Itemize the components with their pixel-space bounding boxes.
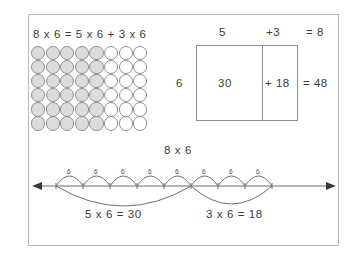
- array-dot-shaded: [60, 102, 74, 116]
- array-dot-empty: [104, 74, 118, 88]
- hop-label-2: 6: [94, 168, 98, 175]
- array-dot-shaded: [89, 60, 103, 74]
- area-model-right-total: = 48: [303, 77, 328, 89]
- array-dot-shaded: [31, 46, 45, 60]
- array-dot-shaded: [89, 116, 103, 130]
- group-arc-right: [191, 186, 272, 204]
- array-dot-shaded: [60, 88, 74, 102]
- circle-array: [31, 46, 148, 131]
- array-dot-shaded: [46, 74, 60, 88]
- area-model-cell-right: + 18: [265, 77, 290, 89]
- array-dot-shaded: [46, 116, 60, 130]
- array-dot-shaded: [75, 60, 89, 74]
- array-dot-shaded: [60, 116, 74, 130]
- area-model-cell-left: 30: [218, 77, 232, 89]
- area-model-top-total-label: = 8: [306, 26, 324, 38]
- array-dot-empty: [104, 88, 118, 102]
- array-dot-shaded: [89, 46, 103, 60]
- hop-label-7: 6: [229, 168, 233, 175]
- main-equation: 8 x 6 = 5 x 6 + 3 x 6: [33, 28, 147, 40]
- hop-label-3: 6: [121, 168, 125, 175]
- number-line-model: 8 x 6: [28, 144, 340, 244]
- hop-label-8: 6: [256, 168, 260, 175]
- array-dot-shaded: [31, 74, 45, 88]
- array-dot-shaded: [31, 88, 45, 102]
- hop-label-1: 6: [67, 168, 71, 175]
- array-dot-empty: [104, 102, 118, 116]
- area-model-top-right-label: +3: [266, 26, 280, 38]
- math-diagram-figure: 8 x 6 = 5 x 6 + 3 x 6 5 +3 = 8 6 30 + 18…: [0, 0, 363, 261]
- hop-label-5: 6: [175, 168, 179, 175]
- hop-label-4: 6: [148, 168, 152, 175]
- hop-label-6: 6: [202, 168, 206, 175]
- array-dot-empty: [119, 74, 133, 88]
- array-dot-empty: [104, 60, 118, 74]
- array-dot-empty: [104, 116, 118, 130]
- array-dot-empty: [119, 60, 133, 74]
- array-dot-shaded: [46, 102, 60, 116]
- array-dot-empty: [133, 60, 147, 74]
- array-dot-empty: [133, 74, 147, 88]
- array-dot-shaded: [31, 116, 45, 130]
- array-dot-empty: [133, 102, 147, 116]
- array-dot-empty: [119, 46, 133, 60]
- array-dot-shaded: [75, 46, 89, 60]
- number-line-svg: [28, 144, 340, 244]
- array-dot-shaded: [46, 46, 60, 60]
- number-line-title: 8 x 6: [164, 144, 192, 156]
- group-arc-left: [56, 186, 191, 206]
- array-dot-empty: [119, 116, 133, 130]
- array-dot-shaded: [75, 74, 89, 88]
- array-dot-empty: [133, 116, 147, 130]
- array-dot-shaded: [75, 116, 89, 130]
- area-model-divider: [262, 46, 263, 120]
- array-dot-shaded: [46, 60, 60, 74]
- array-dot-shaded: [75, 102, 89, 116]
- array-dot-empty: [119, 102, 133, 116]
- array-dot-empty: [133, 88, 147, 102]
- group-arc-right-label: 3 x 6 = 18: [206, 208, 263, 220]
- array-dot-empty: [133, 46, 147, 60]
- array-dot-shaded: [89, 88, 103, 102]
- area-model-left-label: 6: [176, 77, 183, 89]
- right-arrowhead: [326, 182, 336, 190]
- left-arrowhead: [32, 182, 42, 190]
- array-dot-shaded: [75, 88, 89, 102]
- array-dot-empty: [119, 88, 133, 102]
- array-dot-shaded: [60, 60, 74, 74]
- array-dot-shaded: [31, 102, 45, 116]
- group-arc-left-label: 5 x 6 = 30: [85, 208, 142, 220]
- array-dot-shaded: [46, 88, 60, 102]
- array-dot-shaded: [89, 102, 103, 116]
- array-dot-shaded: [60, 74, 74, 88]
- array-dot-shaded: [89, 74, 103, 88]
- array-dot-shaded: [31, 60, 45, 74]
- array-dot-shaded: [60, 46, 74, 60]
- area-model-top-left-label: 5: [219, 26, 226, 38]
- array-dot-empty: [104, 46, 118, 60]
